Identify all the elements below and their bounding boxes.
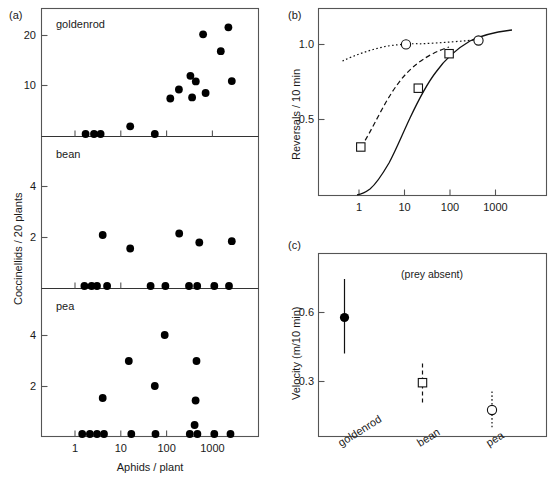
yticklabel-pea-4: 4 bbox=[30, 329, 36, 341]
subpanel-goldenrod-label: goldenrod bbox=[56, 18, 105, 30]
panel-b-curve-bean bbox=[361, 47, 449, 147]
xticklabel-a-1: 1 bbox=[72, 442, 78, 454]
panel-b-markers-pea bbox=[401, 36, 483, 49]
yticklabel-c-0.6: 0.6 bbox=[299, 306, 314, 318]
yticklabel-bean-2: 2 bbox=[30, 231, 36, 243]
yticklabel-b-1.0: 1.0 bbox=[299, 38, 314, 50]
xticklabel-b-10: 10 bbox=[398, 201, 410, 213]
panel-c-point-bean bbox=[418, 364, 426, 403]
panel-b-curve-goldenrod bbox=[357, 30, 512, 195]
xticklabel-b-100: 100 bbox=[441, 201, 459, 213]
yticklabel-pea-2: 2 bbox=[30, 380, 36, 392]
panel-c-point-goldenrod bbox=[340, 279, 349, 354]
panel-b-xticks bbox=[359, 190, 496, 196]
panel-a-label: (a) bbox=[9, 9, 22, 21]
xticklabel-a-100: 100 bbox=[157, 442, 175, 454]
panel-c-label: (c) bbox=[288, 239, 301, 251]
panel-a-frame bbox=[42, 9, 259, 437]
yticklabel-c-0.3: 0.3 bbox=[299, 375, 314, 387]
panel-b-frame bbox=[319, 9, 547, 196]
panel-c-frame bbox=[319, 254, 547, 437]
subpanel-bean-label: bean bbox=[56, 148, 80, 160]
panel-b-label: (b) bbox=[288, 9, 301, 21]
panel-a-pea-points bbox=[78, 331, 234, 438]
subpanel-pea-label: pea bbox=[56, 300, 75, 312]
panel-c-point-pea bbox=[487, 392, 496, 428]
xticklabel-b-1000: 1000 bbox=[483, 201, 507, 213]
xticklabel-b-1: 1 bbox=[356, 201, 362, 213]
xticklabel-a-1000: 1000 bbox=[200, 442, 224, 454]
xticklabel-a-10: 10 bbox=[115, 442, 127, 454]
xticklabel-c-goldenrod: goldenrod bbox=[336, 413, 384, 449]
yticklabel-bean-4: 4 bbox=[30, 180, 36, 192]
panel-a: (a) Coccinellids / 20 plants goldenrod 2… bbox=[9, 9, 259, 474]
xticklabel-c-bean: bean bbox=[415, 426, 442, 449]
subpanel-goldenrod: goldenrod 20 10 bbox=[24, 18, 236, 138]
panel-a-ylabel: Coccinellids / 20 plants bbox=[12, 192, 24, 305]
yticklabel-goldenrod-10: 10 bbox=[24, 79, 36, 91]
panel-a-xlabel: Aphids / plant bbox=[117, 461, 184, 473]
subpanel-bean: bean 4 2 bbox=[30, 148, 236, 290]
panel-a-goldenrod-points bbox=[82, 23, 236, 138]
figure-root: (a) Coccinellids / 20 plants goldenrod 2… bbox=[0, 0, 559, 479]
yticklabel-b-0.5: 0.5 bbox=[299, 113, 314, 125]
panel-a-bean-points bbox=[81, 230, 236, 290]
panel-b: (b) Reversals / 10 min 1.0 0.5 1 10 100 … bbox=[288, 9, 547, 214]
panel-c: (c) Velocity (m/10 min) (prey absent) 0.… bbox=[288, 239, 547, 449]
yticklabel-goldenrod-20: 20 bbox=[24, 29, 36, 41]
xticklabel-c-pea: pea bbox=[484, 428, 507, 448]
panel-c-annotation: (prey absent) bbox=[401, 268, 463, 280]
panel-b-markers-bean bbox=[357, 50, 454, 152]
scientific-figure: (a) Coccinellids / 20 plants goldenrod 2… bbox=[0, 0, 559, 479]
subpanel-pea: pea 4 2 bbox=[30, 300, 235, 438]
panel-b-curve-pea bbox=[343, 39, 483, 61]
